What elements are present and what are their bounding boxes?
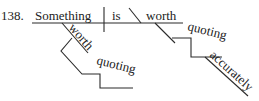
adverb-modifier-word: accurately [207, 47, 257, 94]
complement-object-word: quoting [186, 18, 229, 42]
item-number: 138. [1, 8, 24, 23]
verb-word: is [112, 8, 121, 23]
subject-modifier-word: worth [66, 20, 98, 53]
complement-word: worth [146, 8, 177, 23]
subject-modifier-object-word: quoting [95, 52, 138, 76]
complement-slash [129, 8, 141, 23]
sentence-diagram: 138. Something is worth worth quoting qu… [0, 0, 259, 101]
complement-object-diagonal [155, 23, 175, 43]
subject-word: Something [35, 8, 92, 23]
